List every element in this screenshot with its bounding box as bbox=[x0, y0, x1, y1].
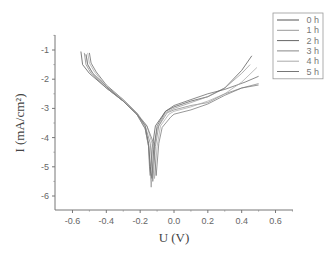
y-tick-label: -1 bbox=[41, 45, 49, 55]
legend-label: 5 h bbox=[306, 67, 319, 77]
series-line-5h bbox=[86, 54, 259, 175]
polarization-chart: -0.6-0.4-0.20.00.20.40.6-1-2-3-4-5-6 U (… bbox=[0, 0, 330, 255]
plot-area bbox=[81, 52, 259, 188]
legend-label: 0 h bbox=[306, 15, 319, 25]
y-tick-label: -5 bbox=[41, 162, 49, 172]
series-line-2h bbox=[89, 53, 258, 179]
y-axis-title: I (mA/cm²) bbox=[12, 93, 27, 152]
legend-label: 3 h bbox=[306, 46, 319, 56]
x-tick-label: -0.6 bbox=[65, 216, 81, 226]
x-tick-label: 0.6 bbox=[269, 216, 282, 226]
x-axis-title: U (V) bbox=[159, 230, 190, 245]
y-tick-label: -6 bbox=[41, 191, 49, 201]
axes: -0.6-0.4-0.20.00.20.40.6-1-2-3-4-5-6 bbox=[41, 35, 293, 226]
y-tick-label: -2 bbox=[41, 74, 49, 84]
legend-label: 1 h bbox=[306, 25, 319, 35]
series-line-3h bbox=[84, 53, 258, 182]
x-tick-label: 0.2 bbox=[202, 216, 215, 226]
legend-label: 2 h bbox=[306, 36, 319, 46]
x-tick-label: 0.0 bbox=[168, 216, 181, 226]
x-tick-label: -0.4 bbox=[99, 216, 115, 226]
x-tick-label: -0.2 bbox=[132, 216, 148, 226]
y-tick-label: -4 bbox=[41, 133, 49, 143]
legend: 0 h1 h2 h3 h4 h5 h bbox=[273, 13, 323, 79]
y-tick-label: -3 bbox=[41, 103, 49, 113]
legend-label: 4 h bbox=[306, 56, 319, 66]
x-tick-label: 0.4 bbox=[235, 216, 248, 226]
